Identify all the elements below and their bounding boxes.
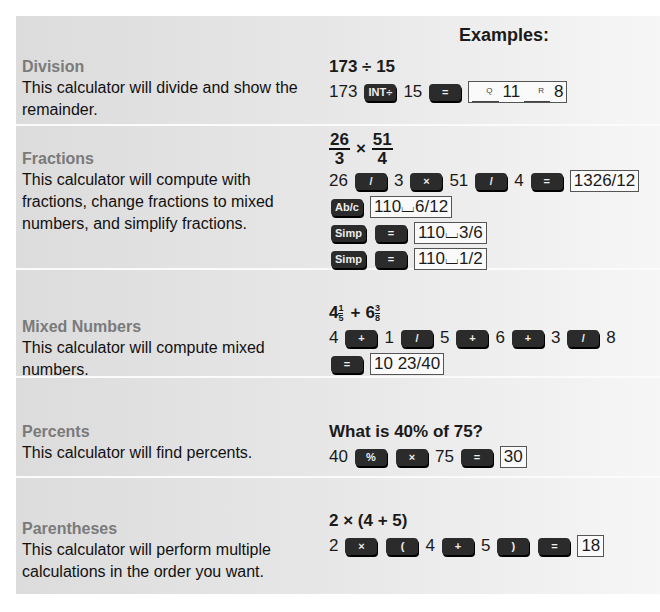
- number: 51: [449, 171, 468, 191]
- number: 4: [329, 328, 338, 348]
- result-display: 10 23/40: [370, 353, 444, 375]
- equals-key[interactable]: =: [429, 84, 461, 101]
- section-description: This calculator will find percents.: [22, 442, 312, 464]
- expression: 2 × (4 + 5): [329, 510, 604, 532]
- section-percents-info: Percents This calculator will find perce…: [22, 421, 312, 464]
- number: 4: [425, 536, 434, 556]
- number: 3: [551, 328, 560, 348]
- key-sequence: Ab/c 110⌴6/12: [329, 195, 639, 219]
- number: 6: [495, 328, 504, 348]
- simplify-key[interactable]: Simp: [331, 225, 366, 242]
- denominator: 3: [335, 150, 344, 167]
- denominator: 4: [378, 150, 387, 167]
- key-sequence: 4 + 1 / 5 + 6 + 3 / 8: [329, 326, 616, 350]
- number: 75: [435, 447, 454, 467]
- whole: 4: [329, 302, 338, 324]
- numerator: 51: [372, 131, 393, 150]
- denominator: 8: [375, 314, 380, 323]
- number: 8: [606, 328, 615, 348]
- section-title: Mixed Numbers: [22, 316, 312, 337]
- section-mixed-numbers-info: Mixed Numbers This calculator will compu…: [22, 316, 312, 381]
- multiply-key[interactable]: ×: [396, 449, 428, 466]
- operator: +: [350, 302, 360, 324]
- number: 3: [394, 171, 403, 191]
- key-sequence: 173 INT÷ 15 = Q 11 R 8: [329, 80, 567, 104]
- fraction-key[interactable]: /: [475, 173, 507, 190]
- fraction: 514: [372, 131, 393, 167]
- expression: 263 × 514: [329, 131, 639, 167]
- section-description: This calculator will compute with fracti…: [22, 169, 312, 235]
- number: 5: [440, 328, 449, 348]
- section-fractions-example: 263 × 514 26 / 3 × 51 / 4 = 1326/12 Ab/c…: [329, 131, 639, 271]
- numerator: 26: [329, 131, 350, 150]
- equals-key[interactable]: =: [538, 538, 570, 555]
- key-sequence: Simp = 110⌴3/6: [329, 221, 639, 245]
- plus-key[interactable]: +: [345, 330, 377, 347]
- quotient-label: Q: [472, 81, 498, 102]
- key-sequence: = 10 23/40: [329, 352, 616, 376]
- result-display: 110⌴1/2: [414, 248, 487, 270]
- section-description: This calculator will compute mixed numbe…: [22, 337, 312, 381]
- result-display: 1326/12: [570, 170, 639, 192]
- mixed-number-key[interactable]: Ab/c: [331, 199, 363, 216]
- section-title: Division: [22, 56, 312, 77]
- section-division-example: 173 ÷ 15 173 INT÷ 15 = Q 11 R 8: [329, 56, 567, 104]
- examples-heading: Examples:: [459, 25, 549, 46]
- numerator: 3: [375, 304, 380, 314]
- key-sequence: 2 × ( 4 + 5 ) = 18: [329, 534, 604, 558]
- divider: [16, 476, 660, 478]
- section-title: Fractions: [22, 148, 312, 169]
- result-display: 110⌴3/6: [414, 222, 487, 244]
- equals-key[interactable]: =: [375, 225, 407, 242]
- denominator: 5: [338, 314, 343, 323]
- number: 1: [384, 328, 393, 348]
- section-fractions-info: Fractions This calculator will compute w…: [22, 148, 312, 235]
- section-description: This calculator will perform multiple ca…: [22, 539, 312, 583]
- section-parentheses-example: 2 × (4 + 5) 2 × ( 4 + 5 ) = 18: [329, 510, 604, 558]
- expression: 173 ÷ 15: [329, 56, 567, 78]
- percent-key[interactable]: %: [355, 449, 387, 466]
- result-display: 30: [500, 446, 527, 468]
- multiply-key[interactable]: ×: [345, 538, 377, 555]
- fraction: 38: [375, 304, 380, 323]
- equals-key[interactable]: =: [531, 173, 563, 190]
- multiply-key[interactable]: ×: [410, 173, 442, 190]
- equals-key[interactable]: =: [331, 356, 363, 373]
- section-division-info: Division This calculator will divide and…: [22, 56, 312, 121]
- number: 4: [514, 171, 523, 191]
- section-parentheses-info: Parentheses This calculator will perform…: [22, 518, 312, 583]
- operator: ×: [356, 138, 366, 160]
- simplify-key[interactable]: Simp: [331, 251, 366, 268]
- plus-key[interactable]: +: [456, 330, 488, 347]
- section-mixed-numbers-example: 4 15 + 6 38 4 + 1 / 5 + 6 + 3 / 8 = 10 2…: [329, 302, 616, 376]
- remainder-label: R: [524, 81, 550, 102]
- number: 2: [329, 536, 338, 556]
- expression: What is 40% of 75?: [329, 421, 527, 443]
- section-title: Percents: [22, 421, 312, 442]
- section-title: Parentheses: [22, 518, 312, 539]
- result-display: 18: [577, 535, 604, 557]
- plus-key[interactable]: +: [512, 330, 544, 347]
- divider: [16, 124, 660, 126]
- fraction: 263: [329, 131, 350, 167]
- expression: 4 15 + 6 38: [329, 302, 616, 324]
- equals-key[interactable]: =: [375, 251, 407, 268]
- int-divide-key[interactable]: INT÷: [364, 84, 396, 101]
- remainder-value: 8: [554, 82, 563, 102]
- close-paren-key[interactable]: ): [497, 538, 529, 555]
- quotient-value: 11: [503, 82, 521, 102]
- numerator: 1: [338, 304, 343, 314]
- fraction-key[interactable]: /: [355, 173, 387, 190]
- number: 26: [329, 171, 348, 191]
- number: 15: [403, 82, 422, 102]
- open-paren-key[interactable]: (: [386, 538, 418, 555]
- equals-key[interactable]: =: [461, 449, 493, 466]
- result-display: Q 11 R 8: [468, 81, 567, 103]
- key-sequence: Simp = 110⌴1/2: [329, 247, 639, 271]
- fraction-key[interactable]: /: [567, 330, 599, 347]
- whole: 6: [365, 302, 374, 324]
- number: 5: [481, 536, 490, 556]
- plus-key[interactable]: +: [442, 538, 474, 555]
- fraction-key[interactable]: /: [401, 330, 433, 347]
- number: 173: [329, 82, 357, 102]
